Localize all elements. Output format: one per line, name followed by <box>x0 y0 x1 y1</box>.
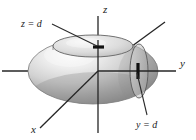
y-equals-d-label: y = d <box>135 119 158 130</box>
z-axis-label: z <box>102 3 108 15</box>
figure-canvas: z y x z = d y = d <box>0 0 196 140</box>
z-equals-d-label: z = d <box>20 18 43 29</box>
y-axis-label: y <box>179 57 185 69</box>
x-axis-label: x <box>30 123 36 135</box>
ellipsoid-figure: z y x z = d y = d <box>0 0 196 140</box>
